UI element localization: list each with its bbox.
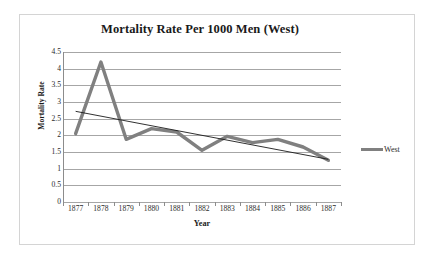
y-tick-label: 2.5 xyxy=(39,115,61,123)
legend-label-west: West xyxy=(384,145,400,154)
y-tick-label: 4 xyxy=(39,65,61,73)
series-line-west xyxy=(63,52,341,202)
chart-frame: Mortality Rate Per 1000 Men (West) Morta… xyxy=(19,14,415,245)
y-tick-label: 0 xyxy=(39,198,61,206)
chart-title: Mortality Rate Per 1000 Men (West) xyxy=(20,22,380,37)
x-axis-tick-labels: 1877187818791880188118821883188418851886… xyxy=(63,205,341,217)
legend-swatch-west xyxy=(361,148,383,152)
y-tick-label: 1 xyxy=(39,165,61,173)
y-tick-label: 2 xyxy=(39,131,61,139)
y-tick-label: 4.5 xyxy=(39,48,61,56)
y-tick-label: 1.5 xyxy=(39,148,61,156)
x-axis-title: Year xyxy=(63,219,341,228)
y-tick-label: 0.5 xyxy=(39,181,61,189)
x-tick-label: 1887 xyxy=(313,205,343,213)
plot-area xyxy=(63,52,341,202)
chart-screenshot: Mortality Rate Per 1000 Men (West) Morta… xyxy=(0,0,438,260)
series-path-west xyxy=(76,62,329,160)
y-tick-label: 3 xyxy=(39,98,61,106)
y-tick-label: 3.5 xyxy=(39,81,61,89)
trendline-path xyxy=(76,111,329,159)
y-axis-tick-labels: 00.511.522.533.544.5 xyxy=(37,52,61,202)
chart-legend: West xyxy=(361,145,400,154)
